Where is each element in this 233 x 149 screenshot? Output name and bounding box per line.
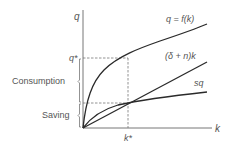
solow-diagram: q k q* k* Consumption Saving q = f(k) (δ…	[0, 0, 233, 149]
y-axis-label: q	[74, 11, 80, 22]
k-star-label: k*	[124, 133, 133, 143]
saving-label: Saving	[42, 110, 70, 120]
q-star-label: q*	[69, 53, 78, 63]
saving-bracket	[78, 104, 81, 127]
consumption-label: Consumption	[12, 76, 65, 86]
saving-curve-label: sq	[194, 78, 204, 88]
saving-curve	[83, 92, 207, 128]
x-axis-label: k	[215, 123, 221, 134]
depreciation-line-label: (δ + n)k	[165, 51, 196, 61]
consumption-bracket	[78, 59, 81, 102]
production-curve-label: q = f(k)	[166, 14, 194, 24]
